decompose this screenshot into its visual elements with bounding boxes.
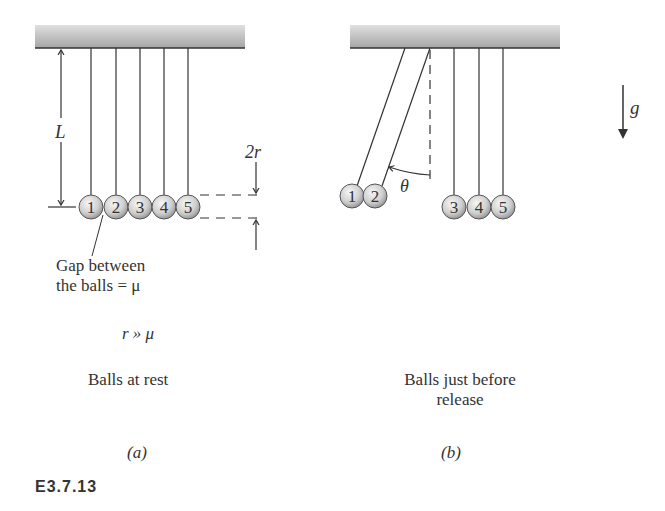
- gap-label-line1: Gap between: [56, 256, 145, 276]
- diameter-label: 2r: [245, 142, 262, 162]
- caption-b-line2: release: [380, 390, 540, 410]
- caption-b: Balls just before release: [380, 370, 540, 410]
- panel-a: 1 2 3 4 5 L: [35, 25, 262, 256]
- figure-id: E3.7.13: [35, 478, 97, 496]
- angle-label: θ: [400, 176, 409, 196]
- ball-5: 5: [491, 195, 515, 219]
- panel-b: θ 1 2 3 4 5 g: [340, 25, 640, 219]
- panel-tag-a: (a): [127, 443, 147, 463]
- ball-2: 2: [104, 195, 128, 219]
- balls-b: 1 2 3 4 5: [340, 184, 515, 219]
- gap-label-line2: the balls = μ: [56, 276, 145, 296]
- condition-label: r » μ: [122, 324, 154, 344]
- caption-b-line1: Balls just before: [380, 370, 540, 390]
- ceiling-b: [350, 25, 560, 48]
- ball-5: 5: [176, 195, 200, 219]
- svg-text:4: 4: [160, 198, 169, 217]
- angle-arc: [389, 167, 430, 175]
- strings-a: [91, 48, 188, 195]
- ball-4: 4: [152, 195, 176, 219]
- caption-a: Balls at rest: [88, 370, 168, 390]
- length-label: L: [54, 121, 66, 142]
- ball-3: 3: [442, 195, 466, 219]
- ceiling-a: [35, 25, 245, 48]
- panel-tag-b: (b): [441, 443, 461, 463]
- gravity-label: g: [630, 97, 640, 118]
- svg-text:2: 2: [371, 187, 380, 206]
- ball-1: 1: [79, 195, 103, 219]
- svg-text:5: 5: [184, 198, 193, 217]
- ball-3: 3: [128, 195, 152, 219]
- svg-text:1: 1: [87, 198, 96, 217]
- svg-text:4: 4: [475, 198, 484, 217]
- gap-leader-line: [92, 215, 103, 256]
- svg-text:2: 2: [112, 198, 121, 217]
- gap-label: Gap between the balls = μ: [56, 256, 145, 296]
- svg-text:3: 3: [450, 198, 459, 217]
- diameter-dimension: [200, 162, 262, 250]
- ball-2: 2: [363, 184, 387, 208]
- svg-text:1: 1: [348, 187, 357, 206]
- svg-text:3: 3: [136, 198, 145, 217]
- balls-a: 1 2 3 4 5: [79, 195, 200, 219]
- ball-4: 4: [467, 195, 491, 219]
- svg-text:5: 5: [499, 198, 508, 217]
- ball-1: 1: [340, 184, 364, 208]
